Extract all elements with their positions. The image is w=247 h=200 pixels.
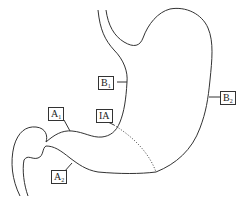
duodenum-lower-outline [23,146,46,196]
label-a1: A1 [48,107,64,121]
label-a1-sub: 1 [58,114,61,120]
duodenum-upper-outline [12,127,47,196]
label-a2: A2 [51,170,67,184]
label-b1: B1 [98,76,114,90]
label-b2: B2 [220,91,236,105]
incisura-dotted-line [114,125,156,172]
greater-curvature-outline [46,8,212,173]
label-b2-sub: 2 [230,98,233,104]
label-ia: IA [96,109,113,123]
label-b1-main: B [101,77,108,88]
label-a2-sub: 2 [61,177,64,183]
label-b1-sub: 1 [108,83,111,89]
lesser-curvature-outline [46,10,127,142]
stomach-diagram [0,0,247,200]
leader-a1 [64,120,70,131]
label-b2-main: B [223,92,230,103]
label-ia-main: IA [99,110,110,121]
